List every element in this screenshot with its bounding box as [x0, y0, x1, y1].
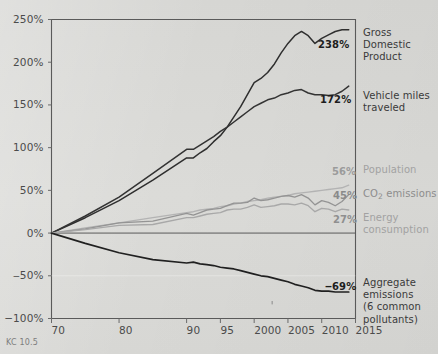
legend-label-gdp: Gross Domestic Product: [363, 27, 411, 64]
value-label-aggregate: ‒69%: [325, 281, 356, 292]
legend-label-aggregate: Aggregate emissions (6 common pollutants…: [363, 277, 421, 326]
value-label-vmt: 172%: [320, 94, 351, 105]
series-line-energy-consumption: [52, 203, 349, 233]
y-tick-250: 250%: [0, 13, 44, 25]
legend-label-vmt: Vehicle miles traveled: [363, 90, 430, 114]
value-label-population: 56%: [332, 166, 356, 177]
value-label-co2: 45%: [333, 190, 357, 201]
series-line-aggregate-emissions-6-common-pollutants: [52, 233, 349, 292]
series-line-co2-emissions: [52, 195, 349, 233]
series-line-vehicle-miles-traveled: [52, 86, 349, 233]
figure-caption: KC 10.5: [6, 338, 38, 347]
y-tick-50: 50%: [0, 184, 44, 196]
value-label-energy: 27%: [333, 214, 357, 225]
y-tick-200: 200%: [0, 56, 44, 68]
emissions-trend-chart: 250% 200% 150% 100% 50% 0% ‒50% −100% 70…: [0, 0, 438, 354]
y-tick-100: 100%: [0, 141, 44, 153]
legend-label-population: Population: [363, 164, 417, 176]
y-tick-neg50: ‒50%: [0, 269, 44, 281]
value-label-gdp: 238%: [318, 39, 349, 50]
y-tick-150: 150%: [0, 98, 44, 110]
y-tick-neg100: −100%: [0, 312, 44, 324]
y-tick-0: 0%: [0, 227, 44, 239]
legend-label-co2: CO2 emissions: [363, 188, 437, 201]
legend-label-energy: Energy consumption: [363, 212, 429, 236]
series-line-gross-domestic-product: [52, 30, 349, 233]
